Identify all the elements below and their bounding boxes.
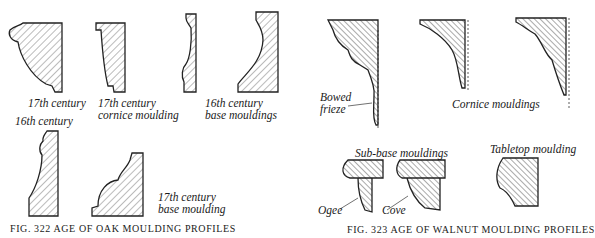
profile-17c-base: [92, 153, 143, 216]
profile-16c-base-b: [238, 12, 278, 92]
label-17th-century: 17th century: [28, 97, 86, 110]
label-cove: Cove: [382, 204, 406, 217]
profile-17c-oak: [9, 23, 62, 92]
label-tabletop-moulding: Tabletop moulding: [490, 143, 576, 156]
profile-16c-base-a: [182, 14, 196, 92]
figure-323-caption: FIG. 323 AGE OF WALNUT MOULDING PROFILES: [347, 224, 595, 235]
profile-17c-cornice: [96, 23, 125, 92]
label-16th-century: 16th century: [15, 115, 73, 128]
profile-tabletop: [497, 158, 538, 206]
profile-subbase-ogee: [343, 160, 383, 212]
label-cornice-mouldings: Cornice mouldings: [452, 98, 540, 111]
label-subbase-mouldings: Sub-base mouldings: [355, 147, 448, 160]
profile-subbase-cove: [397, 160, 445, 210]
label-17th-century-base-2: base moulding: [158, 203, 225, 216]
label-ogee: Ogee: [318, 204, 342, 217]
label-17th-century-cornice-2: cornice moulding: [98, 109, 179, 122]
figure-322-caption: FIG. 322 AGE OF OAK MOULDING PROFILES: [10, 223, 236, 234]
profile-cornice-a: [420, 20, 465, 88]
profile-cornice-b: [516, 18, 566, 95]
label-frieze: frieze: [320, 103, 346, 116]
label-16th-century-base-2: base mouldings: [205, 109, 277, 122]
profile-16c-oak: [29, 131, 58, 216]
